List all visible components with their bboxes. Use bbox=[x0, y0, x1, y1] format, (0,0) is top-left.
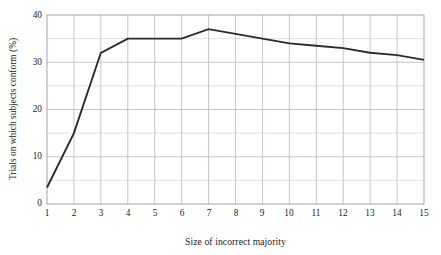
plot-area bbox=[0, 0, 441, 255]
major-gridlines bbox=[47, 15, 424, 204]
chart-container: Trials on which subjects conform (%) Siz… bbox=[0, 0, 441, 255]
